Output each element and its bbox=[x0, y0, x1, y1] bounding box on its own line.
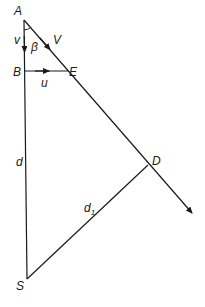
label-d1: d1 bbox=[84, 201, 95, 217]
line-a-s bbox=[24, 20, 27, 279]
geometry-diagram: A B E D S v β V u d d1 bbox=[0, 0, 205, 307]
point-label-s: S bbox=[16, 279, 24, 293]
angle-beta-arc bbox=[24, 28, 31, 31]
arrow-V bbox=[40, 38, 50, 50]
point-label-a: A bbox=[13, 4, 22, 18]
label-d: d bbox=[16, 155, 23, 169]
label-u: u bbox=[41, 76, 48, 90]
point-label-b: B bbox=[13, 65, 21, 79]
label-v-small: v bbox=[14, 33, 21, 47]
label-V-large: V bbox=[53, 33, 62, 47]
point-label-d: D bbox=[152, 154, 161, 168]
line-s-d bbox=[27, 165, 148, 279]
point-label-e: E bbox=[69, 65, 78, 79]
label-beta: β bbox=[30, 40, 38, 54]
